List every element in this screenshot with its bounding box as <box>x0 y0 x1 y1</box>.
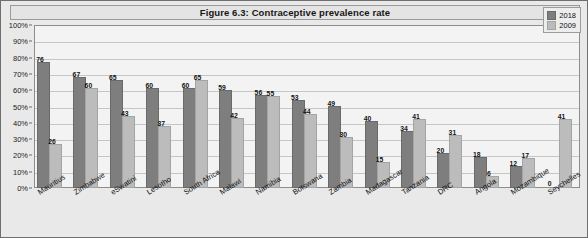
y-axis-tick-mark <box>29 155 32 156</box>
bar-group: 7626 <box>34 25 70 188</box>
bar-value-label: 65 <box>187 74 209 81</box>
y-axis-tick-mark <box>29 73 32 74</box>
bar-group: 1217 <box>507 25 543 188</box>
bar-value-label: 76 <box>29 56 51 63</box>
y-axis-tick-label: 10% <box>13 167 28 176</box>
bar-value-label: 40 <box>357 115 379 122</box>
bar-group: 5655 <box>252 25 288 188</box>
legend-swatch-icon <box>547 11 556 20</box>
bar-value-label: 31 <box>441 129 463 136</box>
y-axis-tick-label: 50% <box>13 102 28 111</box>
bar-group: 6065 <box>180 25 216 188</box>
bar-value-label: 42 <box>223 112 245 119</box>
legend-label: 2009 <box>559 21 576 30</box>
bar-value-label: 17 <box>514 152 536 159</box>
legend-item-2018: 2018 <box>547 10 576 20</box>
bar-group: 4015 <box>362 25 398 188</box>
page-title: Figure 6.3: Contraceptive prevalence rat… <box>200 7 390 18</box>
bar-value-label: 30 <box>332 131 354 138</box>
bar <box>267 96 280 188</box>
bar-value-label: 59 <box>211 84 233 91</box>
y-axis-tick-mark <box>29 139 32 140</box>
bar-value-label: 44 <box>296 108 318 115</box>
legend-swatch-icon <box>547 21 556 30</box>
chart-title-bar: Figure 6.3: Contraceptive prevalence rat… <box>10 5 580 20</box>
y-axis-tick-label: 0% <box>17 184 28 193</box>
y-axis-tick-label: 30% <box>13 135 28 144</box>
y-axis-tick-label: 80% <box>13 53 28 62</box>
legend-item-2009: 2009 <box>547 20 576 30</box>
y-axis: 100%90%80%70%60%50%40%30%20%10%0% <box>1 25 32 188</box>
bar-value-label: 18 <box>466 151 488 158</box>
bar-value-label: 37 <box>150 120 172 127</box>
x-axis: MauritiusZimbabweeSwatiniLesothoSouth Af… <box>34 189 580 238</box>
y-axis-tick-label: 40% <box>13 118 28 127</box>
bar-value-label: 49 <box>320 100 342 107</box>
bar-value-label: 20 <box>429 147 451 154</box>
y-axis-tick-mark <box>29 171 32 172</box>
bar-value-label: 6 <box>478 170 500 177</box>
bar-group: 6760 <box>70 25 106 188</box>
bar-group: 2031 <box>434 25 470 188</box>
bar-value-label: 65 <box>102 74 124 81</box>
y-axis-tick-label: 100% <box>9 21 28 30</box>
bar-value-label: 60 <box>77 82 99 89</box>
bar-value-label: 43 <box>114 110 136 117</box>
bar-value-label: 12 <box>502 160 524 167</box>
chart-legend: 2018 2009 <box>543 7 581 33</box>
bar-value-label: 55 <box>259 90 281 97</box>
y-axis-tick-label: 60% <box>13 86 28 95</box>
bar-group: 6037 <box>143 25 179 188</box>
bar-group: 6543 <box>107 25 143 188</box>
y-axis-tick-label: 70% <box>13 69 28 78</box>
bar-value-label: 41 <box>551 113 573 120</box>
bar-group: 5942 <box>216 25 252 188</box>
bar-value-label: 67 <box>65 71 87 78</box>
bar-group: 4930 <box>325 25 361 188</box>
bar-value-label: 60 <box>175 82 197 89</box>
bar-group: 3441 <box>398 25 434 188</box>
y-axis-tick-mark <box>29 41 32 42</box>
bar-group: 041 <box>544 25 580 188</box>
bar <box>449 135 462 188</box>
y-axis-tick-mark <box>29 90 32 91</box>
bar <box>195 80 208 188</box>
y-axis-tick-label: 20% <box>13 151 28 160</box>
y-axis-tick-mark <box>29 25 32 26</box>
bars-layer: 7626676065436037606559425655534449304015… <box>34 25 580 188</box>
y-axis-tick-mark <box>29 122 32 123</box>
legend-label: 2018 <box>559 11 576 20</box>
bar-value-label: 60 <box>138 82 160 89</box>
bar-value-label: 41 <box>405 113 427 120</box>
bar-value-label: 34 <box>393 125 415 132</box>
y-axis-tick-mark <box>29 188 32 189</box>
bar-value-label: 15 <box>369 156 391 163</box>
bar-value-label: 26 <box>41 138 63 145</box>
chart-figure: Figure 6.3: Contraceptive prevalence rat… <box>0 0 588 238</box>
bar-value-label: 53 <box>284 94 306 101</box>
y-axis-tick-mark <box>29 106 32 107</box>
y-axis-tick-label: 90% <box>13 37 28 46</box>
